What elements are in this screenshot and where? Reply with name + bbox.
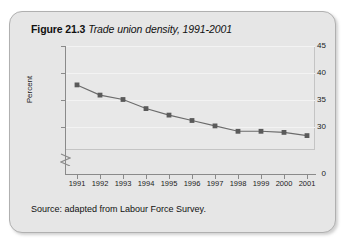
data-point-2001 [305, 133, 310, 138]
data-point-2000 [282, 130, 287, 135]
data-point-1992 [98, 93, 103, 98]
figure-panel: Figure 21.3 Trade union density, 1991-20… [9, 11, 336, 233]
figure-title: Figure 21.3 Trade union density, 1991-20… [31, 23, 232, 35]
line-chart: Percent 45 40 35 30 0 1991 1992 1993 199… [21, 41, 326, 181]
series-trade-union-density [21, 41, 326, 181]
data-point-1991 [75, 83, 80, 88]
series-line [77, 85, 307, 136]
data-point-1995 [167, 113, 172, 118]
figure-caption: Trade union density, 1991-2001 [88, 23, 232, 35]
data-point-1998 [236, 129, 241, 134]
source-note: Source: adapted from Labour Force Survey… [31, 204, 206, 214]
data-point-1999 [259, 129, 264, 134]
data-point-1996 [190, 118, 195, 123]
series-markers [75, 83, 310, 139]
data-point-1993 [121, 97, 126, 102]
figure-number: Figure 21.3 [31, 23, 85, 35]
data-point-1994 [144, 106, 149, 111]
data-point-1997 [213, 124, 218, 129]
